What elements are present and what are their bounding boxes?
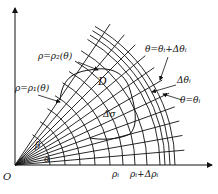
angle-alpha-label: α: [44, 155, 50, 164]
region-label: D: [98, 76, 107, 87]
angle-beta-label: β: [35, 141, 40, 150]
ray-lower-label: θ=θᵢ: [180, 96, 200, 105]
outer-curve-label: ρ=ρ₂(θ): [38, 52, 72, 61]
outer-curve-arrow: [78, 62, 98, 70]
ray-upper-label: θ=θᵢ+Δθᵢ: [145, 45, 186, 54]
radial-ray: [15, 24, 110, 165]
upper-ray-arrow: [160, 57, 168, 80]
inner-curve-label: ρ=ρ₁(θ): [15, 84, 49, 93]
radial-ray: [15, 150, 184, 165]
inner-curve-arrow: [38, 95, 60, 102]
rho-i-plus-label: ρᵢ+Δρᵢ: [130, 170, 158, 179]
rho-i-label: ρᵢ: [112, 170, 119, 179]
delta-theta-label: Δθᵢ: [177, 76, 191, 85]
area-element-label: Δσ: [103, 110, 116, 119]
origin-label: O: [3, 172, 11, 182]
radial-ray: [15, 93, 169, 165]
